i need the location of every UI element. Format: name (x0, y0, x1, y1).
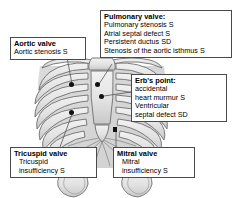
erbs-point-callout: Erb's point: accidental heart murmur S V… (131, 74, 227, 122)
mitral-valve-callout: Mitral valve Mitral insufficiency S (113, 147, 195, 178)
pulmonary-marker (95, 82, 100, 87)
pulmonary-valve-line-4: Stenosis of the aortic isthmus S (104, 47, 228, 56)
aortic-valve-line-1: Aortic stenosis S (14, 48, 82, 57)
tricuspid-valve-callout: Tricuspid valve Tricuspid insufficiency … (10, 147, 97, 178)
diagram-canvas: Pulmonary valve: Pulmonary stenosis S At… (0, 0, 240, 198)
aortic-valve-callout: Aortic valve Aortic stenosis S (10, 37, 86, 60)
mitral-valve-line-2: insufficiency S (117, 167, 191, 176)
pulmonary-valve-callout: Pulmonary valve: Pulmonary stenosis S At… (100, 10, 232, 58)
erb-marker (99, 94, 104, 99)
mitral-marker (113, 127, 117, 132)
tricuspid-marker (69, 110, 74, 115)
erbs-point-line-4: septal defect SD (135, 111, 223, 120)
tricuspid-valve-line-2: insufficiency S (14, 167, 93, 176)
aortic-marker (69, 82, 74, 87)
